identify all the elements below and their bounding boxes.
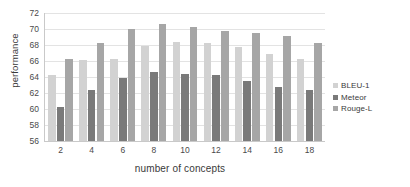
bar (65, 59, 73, 141)
bar (159, 24, 167, 141)
y-axis-tick-label: 64 (30, 72, 39, 82)
bar (235, 47, 243, 141)
y-axis-tick-label: 70 (30, 24, 39, 34)
bar (297, 59, 305, 141)
x-axis-title: number of concepts (30, 163, 330, 174)
legend-item: BLEU-1 (333, 80, 407, 92)
bar (141, 46, 149, 141)
legend-swatch-icon (333, 83, 338, 88)
bar (204, 43, 212, 141)
bar (252, 33, 260, 141)
y-axis-title: performance (9, 16, 20, 106)
x-axis-line (44, 141, 325, 142)
bar (275, 87, 283, 141)
y-axis-tick-label: 58 (30, 120, 39, 130)
bar-group: 10 (169, 13, 200, 141)
legend-item: Meteor (333, 92, 407, 104)
bar-group: 16 (263, 13, 294, 141)
bar-group: 4 (76, 13, 107, 141)
bar (150, 72, 158, 141)
bar (119, 78, 127, 141)
bar (190, 27, 198, 141)
x-axis-tick-label: 18 (294, 145, 325, 155)
bar (57, 107, 65, 141)
x-axis-tick-label: 16 (263, 145, 294, 155)
bar-chart-figure: performance number of concepts 565860626… (0, 0, 410, 187)
x-axis-tick-label: 12 (201, 145, 232, 155)
bar (212, 75, 220, 141)
x-axis-tick-label: 2 (45, 145, 76, 155)
x-axis-tick-label: 8 (138, 145, 169, 155)
bar-group: 8 (138, 13, 169, 141)
bar (79, 60, 87, 141)
x-axis-tick-label: 10 (169, 145, 200, 155)
bar (306, 90, 314, 141)
y-axis-tick-label: 56 (30, 136, 39, 146)
bar (88, 90, 96, 141)
bar (283, 36, 291, 141)
plot-area: 565860626466687072 24681012141618 (44, 13, 325, 141)
bar-groups: 24681012141618 (45, 13, 325, 141)
bar (173, 42, 181, 141)
bar-group: 2 (45, 13, 76, 141)
y-axis-tick-label: 60 (30, 104, 39, 114)
bar (314, 43, 322, 141)
x-axis-tick-label: 4 (76, 145, 107, 155)
bar (181, 74, 189, 141)
x-axis-tick-label: 6 (107, 145, 138, 155)
legend-item: Rouge-L (333, 103, 407, 115)
y-axis-tick-label: 68 (30, 40, 39, 50)
x-axis-tick-label: 14 (232, 145, 263, 155)
bar-group: 18 (294, 13, 325, 141)
bar-group: 6 (107, 13, 138, 141)
legend-swatch-icon (333, 106, 338, 111)
bar (110, 59, 118, 141)
chart-legend: BLEU-1MeteorRouge-L (333, 80, 407, 115)
bar (266, 54, 274, 141)
bar (97, 43, 105, 141)
y-axis-tick-label: 62 (30, 88, 39, 98)
bar-group: 14 (232, 13, 263, 141)
bar-group: 12 (201, 13, 232, 141)
bar (221, 31, 229, 141)
y-axis-tick-label: 66 (30, 56, 39, 66)
bar (48, 75, 56, 141)
legend-swatch-icon (333, 95, 338, 100)
legend-label: Rouge-L (341, 104, 372, 113)
bar (243, 81, 251, 141)
legend-label: Meteor (341, 93, 367, 102)
legend-label: BLEU-1 (341, 81, 370, 90)
y-axis-tick-label: 72 (30, 8, 39, 18)
bar (128, 29, 136, 141)
